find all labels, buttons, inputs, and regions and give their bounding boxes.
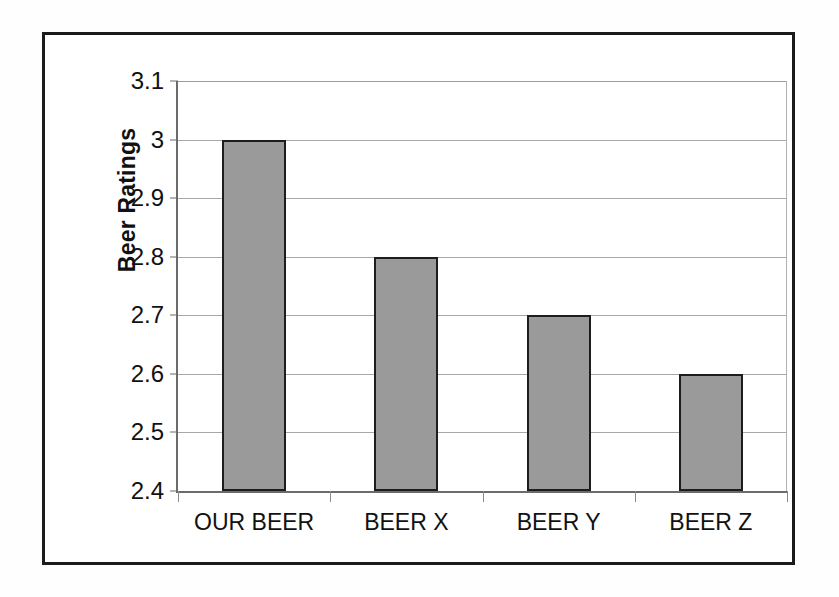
x-tick-mark [178, 491, 179, 502]
y-tick-label: 2.4 [131, 477, 164, 505]
x-category-label: BEER Y [517, 509, 601, 536]
y-tick-mark [170, 432, 178, 433]
bar-our-beer [222, 140, 286, 491]
bar-beer-z [679, 374, 743, 491]
y-tick-mark [170, 256, 178, 257]
y-tick-label: 2.6 [131, 360, 164, 388]
bar-beer-y [527, 315, 591, 491]
y-tick-mark [170, 198, 178, 199]
y-tick-mark [170, 315, 178, 316]
y-tick-label: 3 [151, 126, 164, 154]
y-tick-label: 2.7 [131, 301, 164, 329]
x-tick-mark [635, 491, 636, 502]
y-tick-mark [170, 491, 178, 492]
x-tick-mark [483, 491, 484, 502]
bar-beer-x [374, 257, 438, 491]
plot-area: 3.132.92.82.72.62.52.4 OUR BEERBEER XBEE… [176, 81, 787, 493]
x-tick-mark [787, 491, 788, 502]
x-category-label: BEER X [364, 509, 448, 536]
x-tick-mark [330, 491, 331, 502]
y-tick-mark [170, 139, 178, 140]
chart-frame: Beer Ratings 3.132.92.82.72.62.52.4 OUR … [42, 32, 795, 565]
y-tick-label: 2.9 [131, 184, 164, 212]
y-tick-mark [170, 373, 178, 374]
x-category-label: OUR BEER [194, 509, 314, 536]
scanned-page: Beer Ratings 3.132.92.82.72.62.52.4 OUR … [0, 0, 839, 597]
plot-top-border [178, 81, 787, 82]
y-tick-mark [170, 81, 178, 82]
x-category-label: BEER Z [669, 509, 752, 536]
y-tick-label: 2.5 [131, 418, 164, 446]
y-tick-label: 2.8 [131, 243, 164, 271]
y-tick-label: 3.1 [131, 67, 164, 95]
plot-right-border [786, 81, 787, 491]
